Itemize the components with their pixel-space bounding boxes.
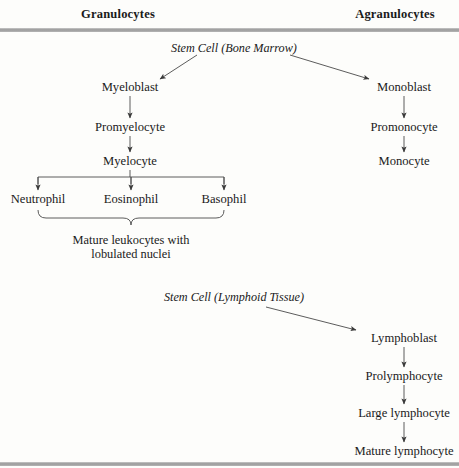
branch-drops	[38, 177, 224, 184]
hematopoiesis-diagram: Granulocytes Agranulocytes	[0, 0, 459, 468]
arrow-stemcell-to-myeloblast	[160, 55, 197, 79]
node-mature-lymphocyte: Mature lymphocyte	[355, 444, 454, 459]
arrow-stemcell-to-monoblast	[290, 55, 369, 79]
node-prolymphocyte: Prolymphocyte	[366, 369, 443, 384]
bottom-divider-rule	[0, 462, 459, 466]
node-stem-cell-bone-marrow: Stem Cell (Bone Marrow)	[171, 41, 297, 55]
node-promonocyte: Promonocyte	[370, 120, 437, 135]
node-monoblast: Monoblast	[377, 80, 431, 95]
connector-layer	[0, 0, 459, 468]
node-eosinophil: Eosinophil	[104, 192, 159, 207]
node-stem-cell-lymphoid-tissue: Stem Cell (Lymphoid Tissue)	[164, 290, 304, 304]
node-lymphoblast: Lymphoblast	[371, 331, 437, 346]
node-basophil: Basophil	[202, 192, 247, 207]
node-myeloblast: Myeloblast	[102, 80, 159, 95]
node-myelocyte: Myelocyte	[103, 154, 157, 169]
node-neutrophil: Neutrophil	[11, 192, 66, 207]
brace-caption-line-1: Mature leukocytes with	[73, 233, 190, 248]
node-promyelocyte: Promyelocyte	[95, 120, 165, 135]
brace-caption-line-2: lobulated nuclei	[91, 247, 170, 262]
node-monocyte: Monocyte	[378, 154, 429, 169]
arrow-lymphoid-stemcell-to-lymphoblast	[266, 307, 356, 330]
grouping-brace	[38, 210, 224, 225]
node-large-lymphocyte: Large lymphocyte	[358, 406, 450, 421]
